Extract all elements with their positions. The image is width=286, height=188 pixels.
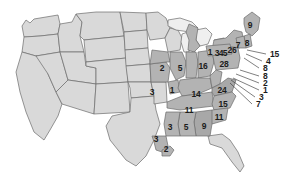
value-label-kentucky: 14 xyxy=(191,90,200,99)
value-label-mississippi: 3 xyxy=(168,123,173,132)
value-label-tennessee: 11 xyxy=(185,106,194,115)
value-label-south-carolina: 11 xyxy=(215,113,224,122)
value-label-small-state-1: 1 xyxy=(170,86,175,95)
state-kansas xyxy=(126,64,151,82)
leader-line-delaware xyxy=(236,74,259,83)
value-label-pennsylvania: 28 xyxy=(219,60,228,69)
value-label-vermont: 7 xyxy=(236,41,241,50)
value-label-iowa: 2 xyxy=(160,64,165,73)
us-value-map-figure: 3 2 5 16 1 14 11 28 26 24 15 11 9 5 3 3 … xyxy=(0,0,286,188)
state-north-dakota xyxy=(120,12,147,32)
state-indiana xyxy=(186,52,198,78)
value-label-south-louisiana: 2 xyxy=(164,145,169,154)
leader-line-rhode-island xyxy=(246,54,262,61)
value-label-missouri: 3 xyxy=(150,88,155,97)
value-label-west-virginia: 1 xyxy=(208,48,213,57)
value-label-alabama: 5 xyxy=(184,123,189,132)
state-florida xyxy=(208,134,244,172)
us-map-graphic xyxy=(0,0,286,188)
value-label-georgia: 9 xyxy=(202,122,207,131)
leader-line-new-jersey xyxy=(240,70,259,76)
state-nebraska xyxy=(125,48,150,66)
value-label-louisiana: 3 xyxy=(154,135,159,144)
state-washington xyxy=(22,15,60,37)
callout-label-virginia-east: 7 xyxy=(256,100,261,109)
leader-line-connecticut xyxy=(244,58,259,68)
value-label-indiana-ohio: 16 xyxy=(198,62,207,71)
value-label-michigan-strip-5: 5 xyxy=(223,49,228,58)
state-montana xyxy=(76,12,124,40)
value-label-virginia: 24 xyxy=(217,86,226,95)
value-label-maine: 9 xyxy=(248,21,253,30)
value-label-new-hampshire: 8 xyxy=(245,39,250,48)
value-label-north-carolina: 15 xyxy=(218,100,227,109)
callout-label-massachusetts: 15 xyxy=(270,50,279,59)
leader-line-massachusetts xyxy=(247,50,266,54)
state-new-mexico xyxy=(94,82,130,114)
state-south-dakota xyxy=(124,30,148,50)
state-wyoming xyxy=(84,36,126,62)
value-label-illinois: 5 xyxy=(178,64,183,73)
